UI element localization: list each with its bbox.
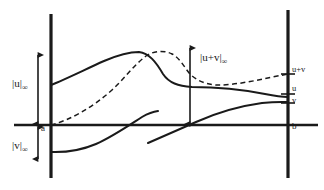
curve-u-plus-v <box>51 51 288 125</box>
u-norm-subscript: ∞ <box>22 83 28 92</box>
v-norm-label: |v|∞ <box>12 140 28 154</box>
u-norm-bars: |u| <box>12 77 22 89</box>
curve-v-segment-2 <box>148 102 288 143</box>
curve-label-v: v <box>292 96 296 105</box>
v-norm-bars: |v| <box>12 139 22 151</box>
left-endpoint-label: a <box>41 124 45 133</box>
u-plus-v-norm-bars: |u+v| <box>200 51 222 63</box>
figure-container: |u|∞ |v|∞ |u+v|∞ a b u+v u v <box>0 0 324 190</box>
curve-u <box>51 52 288 97</box>
v-norm-subscript: ∞ <box>22 145 28 154</box>
u-norm-label: |u|∞ <box>12 78 28 92</box>
curve-label-u: u <box>292 84 296 93</box>
right-endpoint-label: b <box>292 122 297 131</box>
u-plus-v-norm-subscript: ∞ <box>222 57 228 66</box>
diagram-canvas <box>0 0 324 190</box>
u-plus-v-norm-label: |u+v|∞ <box>200 52 227 66</box>
curve-v-segment-1 <box>51 111 158 152</box>
curve-label-u-plus-v: u+v <box>292 65 305 74</box>
